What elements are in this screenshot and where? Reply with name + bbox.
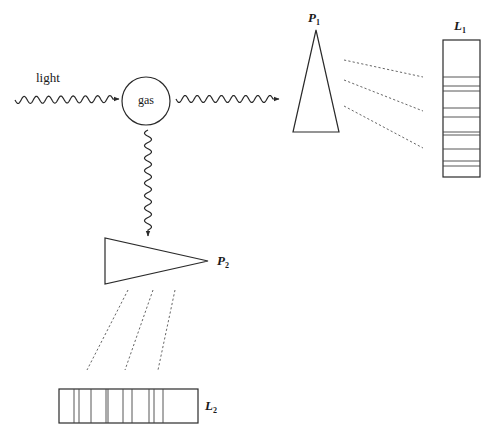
- spectrum-l2-box: [59, 389, 198, 423]
- dispersed-rays-p2: [87, 290, 175, 370]
- transmitted-light-wave: [176, 96, 279, 103]
- incoming-light-wave: [15, 96, 119, 104]
- spectrum-l1-lines: [443, 77, 480, 166]
- spectrum-l2-lines: [74, 389, 163, 423]
- gas-label: gas: [138, 93, 154, 107]
- dashed-ray: [344, 80, 423, 111]
- spectrum-l1: L1: [443, 18, 480, 177]
- spectroscopy-diagram: light gas P1 L1 P2: [0, 0, 493, 440]
- spectrum-l2-label: L2: [204, 398, 217, 415]
- prism-p1-label: P1: [308, 10, 320, 27]
- emitted-light-wave: [145, 130, 152, 236]
- dashed-ray: [158, 290, 175, 370]
- prism-p1: P1: [293, 10, 339, 132]
- prism-p2-label: P2: [217, 253, 229, 270]
- gas-sample: gas: [122, 77, 170, 125]
- dispersed-rays-p1: [344, 60, 423, 148]
- spectrum-l1-box: [443, 40, 480, 177]
- light-label: light: [36, 70, 60, 85]
- dashed-ray: [125, 290, 153, 370]
- dashed-ray: [344, 106, 423, 148]
- spectrum-l1-label: L1: [453, 18, 466, 35]
- spectrum-l2: L2: [59, 389, 217, 423]
- prism-p2: P2: [105, 238, 229, 284]
- prism-p1-triangle: [293, 30, 339, 132]
- prism-p2-triangle: [105, 238, 208, 284]
- dashed-ray: [87, 290, 128, 370]
- dashed-ray: [344, 60, 423, 77]
